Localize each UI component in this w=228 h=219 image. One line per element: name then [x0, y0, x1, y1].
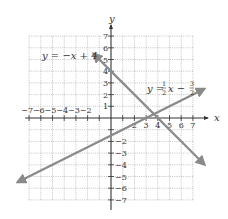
x-tick-label: −2 [80, 106, 92, 115]
x-tick-label: 3 [144, 121, 149, 130]
y-tick-label: −4 [115, 161, 127, 170]
x-tick-label: −7 [21, 106, 33, 115]
x-tick-label: 6 [179, 121, 184, 130]
y-tick-label: 7 [103, 32, 108, 41]
y-tick-label: −6 [115, 184, 127, 193]
svg-text:2: 2 [162, 89, 166, 97]
y-tick-label: −5 [115, 173, 127, 182]
coordinate-plane: −7−6−5−4−3−22345677654321−2−3−4−5−6−7 x … [0, 0, 228, 219]
y-axis-label: y [108, 13, 115, 24]
y-tick-label: −7 [115, 196, 127, 205]
y-tick-label: −2 [115, 137, 127, 146]
y-tick-label: 6 [103, 44, 108, 53]
x-tick-label: −6 [33, 106, 45, 115]
line-1 [93, 54, 204, 165]
y-tick-label: 1 [103, 102, 108, 111]
svg-text:3: 3 [190, 80, 194, 88]
x-tick-label: 7 [190, 121, 195, 130]
line1-label: y = −x + 4 [41, 50, 98, 61]
line2-label: y = 1 2 x − 3 2 [146, 80, 194, 97]
y-tick-label: 3 [103, 79, 108, 88]
x-tick-label: −5 [45, 106, 57, 115]
x-axis-label: x [214, 112, 220, 123]
svg-text:x −: x − [168, 83, 185, 94]
x-tick-label: −3 [68, 106, 80, 115]
y-tick-label: 2 [103, 91, 108, 100]
y-tick-label: −3 [115, 149, 127, 158]
svg-text:2: 2 [190, 89, 194, 97]
x-tick-label: −4 [56, 106, 68, 115]
svg-text:1: 1 [162, 80, 166, 88]
x-tick-label: 4 [155, 121, 160, 130]
